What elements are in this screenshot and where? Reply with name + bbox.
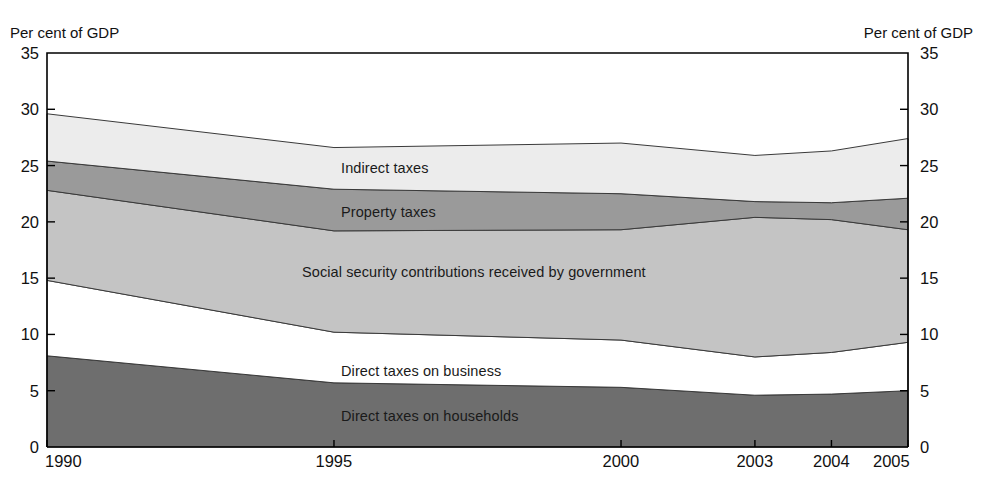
x-axis-tick-1990: 1990 — [45, 452, 82, 471]
series-label-social-security: Social security contributions received b… — [302, 264, 646, 280]
y-axis-right-tick-10: 10 — [920, 326, 954, 343]
y-axis-left-tick-5: 5 — [5, 383, 39, 400]
series-label-indirect-taxes: Indirect taxes — [341, 160, 429, 176]
y-axis-left-tick-35: 35 — [5, 45, 39, 62]
series-label-direct-taxes-households: Direct taxes on households — [341, 408, 519, 424]
series-label-property-taxes: Property taxes — [341, 204, 436, 220]
y-axis-left-tick-30: 30 — [5, 101, 39, 118]
y-axis-right-tick-5: 5 — [920, 383, 954, 400]
x-axis-tick-2004: 2004 — [813, 452, 850, 471]
x-axis-tick-2000: 2000 — [603, 452, 640, 471]
y-axis-left-tick-0: 0 — [5, 439, 39, 456]
y-axis-right-tick-20: 20 — [920, 214, 954, 231]
y-axis-left-tick-20: 20 — [5, 214, 39, 231]
y-axis-right-tick-35: 35 — [920, 45, 954, 62]
y-axis-left-tick-15: 15 — [5, 270, 39, 287]
y-axis-right-tick-30: 30 — [920, 101, 954, 118]
x-axis-tick-2005: 2005 — [873, 452, 910, 471]
series-label-direct-taxes-business: Direct taxes on business — [341, 363, 501, 379]
area-bands-group — [47, 114, 908, 447]
y-axis-right-tick-15: 15 — [920, 270, 954, 287]
x-axis-tick-2003: 2003 — [736, 452, 773, 471]
chart-container: Per cent of GDP Per cent of GDP 35302520… — [0, 0, 981, 492]
x-axis-tick-1995: 1995 — [315, 452, 352, 471]
y-axis-right-tick-0: 0 — [920, 439, 954, 456]
y-axis-right-tick-25: 25 — [920, 158, 954, 175]
y-axis-left-tick-10: 10 — [5, 326, 39, 343]
y-axis-left-tick-25: 25 — [5, 158, 39, 175]
